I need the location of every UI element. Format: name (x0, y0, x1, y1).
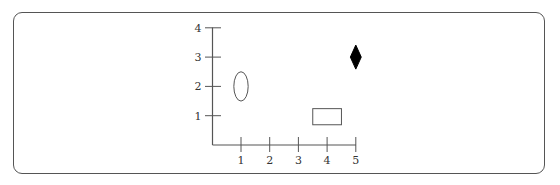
ellipse-shape (234, 72, 248, 101)
x-tick-label: 3 (295, 154, 302, 167)
x-tick-label: 2 (266, 154, 273, 167)
y-tick-label: 1 (195, 110, 202, 123)
y-tick-labels: 1 2 3 4 (195, 22, 202, 123)
shape-layer (234, 45, 361, 125)
x-tick-label: 1 (238, 154, 245, 167)
coordinate-plot: 1 2 3 4 1 2 3 4 5 (0, 0, 560, 185)
rectangle-shape (313, 109, 342, 125)
x-tick-labels: 1 2 3 4 5 (238, 154, 360, 167)
y-tick-label: 3 (195, 51, 202, 64)
x-tick-label: 4 (324, 154, 331, 167)
diamond-shape (350, 45, 361, 69)
x-tick-label: 5 (352, 154, 359, 167)
y-tick-label: 4 (195, 22, 202, 35)
y-tick-label: 2 (195, 80, 202, 93)
